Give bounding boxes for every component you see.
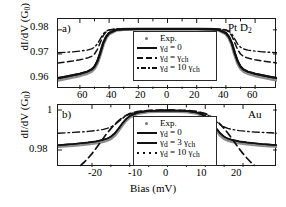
legend-row: γd = 10 γch <box>136 63 213 73</box>
panel-a-xtick-2: 20 <box>135 89 146 100</box>
legend-label: γd = 10 γch <box>158 147 200 159</box>
legend-key-marker-icon <box>136 33 158 43</box>
panel-a-xtick-1: 40 <box>106 89 117 100</box>
panel-b-xtick-4: 20 <box>231 167 242 178</box>
figure-root: dI/dV (G0) 0.98 0.97 0.96 a) Pt D2 60 40… <box>0 0 286 207</box>
panel-b-xlabel: Bias (mV) <box>130 182 176 194</box>
panel-a-legend: Exp. γd = 0 γd = γch γd = 10 γch <box>133 31 217 81</box>
panel-b-tag: b) <box>62 108 71 120</box>
panel-b-ytick-1: 0.98 <box>29 143 47 154</box>
legend-key-solid-thin-line-icon <box>136 128 158 138</box>
legend-key-solid-line-icon <box>136 43 158 53</box>
panel-b-ytick-0: 1 <box>47 104 52 115</box>
panel-a-xtick-5: 40 <box>218 89 229 100</box>
panel-b-xtick-1: -10 <box>128 167 142 178</box>
panel-a-sample-label: Pt D2 <box>228 21 252 35</box>
legend-row: γd = 10 γch <box>136 148 213 158</box>
panel-a-ytick-1: 0.97 <box>30 46 48 57</box>
legend-key-dotted-line-icon <box>136 148 158 158</box>
panel-b-sample-label: Au <box>248 108 261 120</box>
legend-key-solid-thick-line-icon <box>136 138 158 148</box>
panel-b-legend: Exp. γd = 0 γd = 3 γch γd = 10 γch <box>133 116 217 166</box>
legend-label: γd = 10 γch <box>158 62 200 74</box>
panel-a-xtick-6: 60 <box>247 89 258 100</box>
panel-a-ytick-0: 0.98 <box>30 21 48 32</box>
panel-b-xtick-2: 0 <box>163 167 168 178</box>
panel-b-xtick-0: -20 <box>88 167 102 178</box>
legend-key-marker-icon <box>136 118 158 128</box>
panel-a-ytick-2: 0.96 <box>30 71 48 82</box>
panel-a-tag: a) <box>62 22 71 34</box>
legend-key-dashdot-line-icon <box>136 63 158 73</box>
panel-a-xtick-0: 60 <box>77 89 88 100</box>
panel-a-xtick-4: 20 <box>189 89 200 100</box>
panel-b-xtick-3: 10 <box>196 167 207 178</box>
legend-key-dashed-line-icon <box>136 53 158 63</box>
panel-a-xtick-3: 0 <box>164 89 169 100</box>
